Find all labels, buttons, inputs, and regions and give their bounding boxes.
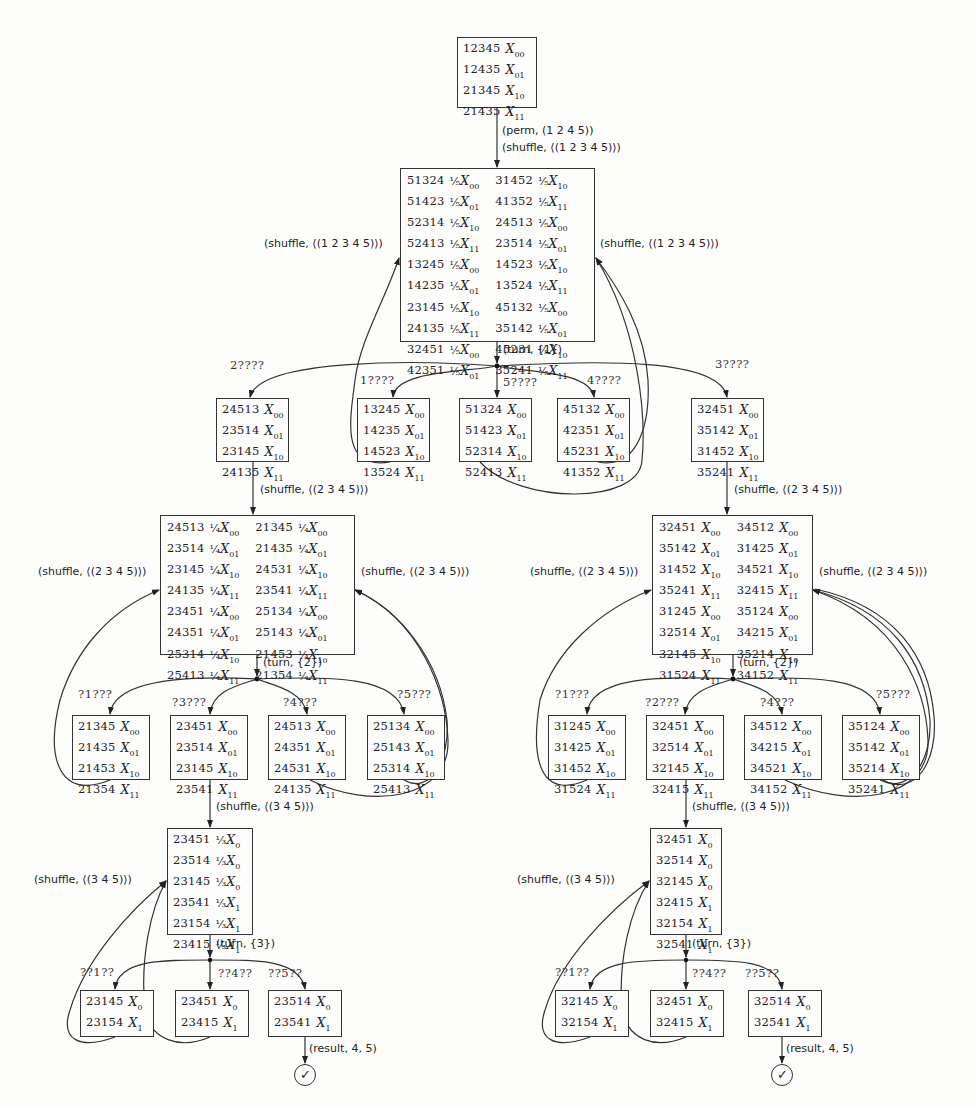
branch-pattern: ??4?? xyxy=(692,966,726,980)
weighted-variable: X10 xyxy=(406,444,425,465)
weighted-variable: X00 xyxy=(695,719,714,740)
weighted-variable: X11 xyxy=(702,583,721,604)
perm-value: 34512 xyxy=(737,520,775,541)
turn-label: (turn, {3}) xyxy=(216,937,275,950)
state-row: 21435¹⁄₄X01 xyxy=(255,541,327,562)
perm-value: 31425 xyxy=(737,541,775,562)
weighted-variable: X10 xyxy=(606,444,625,465)
weighted-variable: X01 xyxy=(695,740,714,761)
state-row: 23514¹⁄₅X01 xyxy=(495,236,567,257)
state-row: 23514X0 xyxy=(274,994,336,1015)
weighted-variable: X00 xyxy=(406,402,425,423)
variable: X10 xyxy=(416,761,435,776)
perm-value: 32154 xyxy=(561,1015,599,1036)
perm-value: 35142 xyxy=(495,321,533,342)
state-row: 31452X10 xyxy=(554,761,620,782)
perm-value: 14235 xyxy=(363,423,401,444)
state-row: 25143¹⁄₄X01 xyxy=(255,625,327,646)
state-row: 35142X01 xyxy=(659,541,721,562)
perm-value: 32154 xyxy=(656,916,694,937)
state-row: 21345¹⁄₄X00 xyxy=(255,520,327,541)
variable: X10 xyxy=(506,83,525,104)
perm-value: 31245 xyxy=(554,719,592,740)
variable: X01 xyxy=(597,740,616,755)
perm-value: 52314 xyxy=(465,444,503,465)
coefficient: ¹⁄₄ xyxy=(298,606,309,619)
loop-label-right: (shuffle, ⟨(1 2 3 4 5)⟩) xyxy=(600,237,719,250)
weighted-variable: X11 xyxy=(597,782,616,803)
state-row: 51324¹⁄₅X00 xyxy=(407,173,479,194)
variable: X01 xyxy=(460,278,479,293)
coefficient: ¹⁄₅ xyxy=(450,323,461,336)
variable: X11 xyxy=(793,782,812,797)
perm-value: 23415 xyxy=(173,937,211,958)
variable: X10 xyxy=(406,444,425,459)
perm-value: 31452 xyxy=(554,761,592,782)
variable: X1 xyxy=(317,1015,331,1030)
perm-value: 24513 xyxy=(274,719,312,740)
state-row: 21435X11 xyxy=(463,104,531,125)
state-row: 51423¹⁄₅X01 xyxy=(407,194,479,215)
weighted-variable: ¹⁄₄X01 xyxy=(298,625,328,646)
perm-value: 23451 xyxy=(167,604,205,625)
level3-state-box: 32451X0035142X0131452X1035241X1131245X00… xyxy=(652,515,813,655)
coefficient: ¹⁄₃ xyxy=(216,876,227,889)
edge-label-shuffle-left: (shuffle, ⟨(2 3 4 5)⟩) xyxy=(260,483,368,496)
perm-value: 32145 xyxy=(656,874,694,895)
state-row: 52314¹⁄₅X10 xyxy=(407,215,479,236)
weighted-variable: X11 xyxy=(793,782,812,803)
weighted-variable: X10 xyxy=(265,444,284,465)
branch-pattern: 1???? xyxy=(360,373,394,387)
perm-value: 35214 xyxy=(848,761,886,782)
weighted-variable: X00 xyxy=(740,402,759,423)
perm-value: 24135 xyxy=(167,583,205,604)
state-row: 32451X00 xyxy=(697,402,758,423)
weighted-variable: X10 xyxy=(219,761,238,782)
edge-label-perm: (perm, (1 2 4 5)) xyxy=(502,124,593,137)
variable: X11 xyxy=(606,465,625,480)
variable: X01 xyxy=(549,236,568,251)
result-label: (result, 4, 5) xyxy=(786,1042,854,1055)
state-row: 23154X1 xyxy=(86,1015,148,1036)
state-row: 25314¹⁄₄X10 xyxy=(167,647,239,668)
state-row: 12345X00 xyxy=(463,41,531,62)
variable: X01 xyxy=(508,423,527,438)
variable: X0 xyxy=(604,994,618,1009)
perm-value: 25413 xyxy=(167,668,205,689)
perm-value: 32451 xyxy=(656,832,694,853)
branch-pattern: ?4??? xyxy=(760,695,794,709)
state-row: 35241X11 xyxy=(659,583,721,604)
perm-value: 24513 xyxy=(495,215,533,236)
weighted-variable: ¹⁄₅X11 xyxy=(538,278,568,299)
result-label: (result, 4, 5) xyxy=(309,1042,377,1055)
perm-value: 23145 xyxy=(222,444,260,465)
variable: X0 xyxy=(797,994,811,1009)
variable: X10 xyxy=(549,173,568,188)
perm-value: 23514 xyxy=(274,994,312,1015)
state-row: 25413¹⁄₄X11 xyxy=(167,668,239,689)
perm-value: 51423 xyxy=(407,194,445,215)
variable: X00 xyxy=(416,719,435,734)
weighted-variable: ¹⁄₅X11 xyxy=(450,236,480,257)
variable: X01 xyxy=(702,625,721,640)
coefficient: ¹⁄₃ xyxy=(216,834,227,847)
weighted-variable: X1 xyxy=(797,1015,811,1036)
state-row: 14523X10 xyxy=(363,444,424,465)
perm-value: 31452 xyxy=(659,562,697,583)
weighted-variable: X10 xyxy=(702,562,721,583)
variable: X00 xyxy=(702,520,721,535)
perm-value: 24351 xyxy=(167,625,205,646)
weighted-variable: ¹⁄₄X10 xyxy=(210,647,240,668)
perm-value: 32145 xyxy=(561,994,599,1015)
state-row: 32451X0 xyxy=(656,832,716,853)
variable: X11 xyxy=(779,583,798,598)
variable: X00 xyxy=(793,719,812,734)
perm-value: 45132 xyxy=(495,300,533,321)
state-row: 32514X01 xyxy=(652,740,718,761)
state-row: 25134¹⁄₄X00 xyxy=(255,604,327,625)
state-row: 32451X00 xyxy=(659,520,721,541)
perm-value: 34152 xyxy=(737,668,775,689)
perm-value: 25413 xyxy=(373,782,411,803)
weighted-variable: X0 xyxy=(699,874,713,895)
weighted-variable: X01 xyxy=(793,740,812,761)
